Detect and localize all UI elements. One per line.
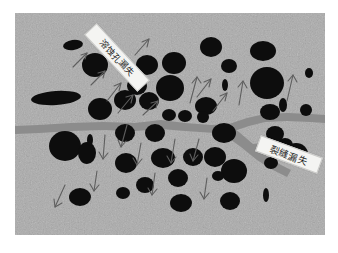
- vug: [114, 90, 136, 110]
- vug: [115, 153, 137, 173]
- vug: [162, 109, 176, 121]
- vug: [145, 124, 165, 142]
- lost-circulation-diagram: 溶蚀孔漏失 裂缝漏失: [15, 13, 325, 235]
- vug: [212, 171, 224, 181]
- vug: [212, 123, 236, 143]
- vug: [300, 104, 312, 116]
- vug: [183, 148, 203, 166]
- vug: [116, 187, 130, 199]
- vug: [156, 75, 184, 101]
- vug: [279, 98, 287, 112]
- vug: [87, 134, 93, 146]
- diagram-svg: [15, 13, 325, 235]
- vug: [136, 177, 154, 193]
- figure-root: 溶蚀孔漏失 裂缝漏失: [0, 0, 338, 253]
- vug: [197, 111, 209, 123]
- vug: [220, 192, 240, 210]
- vug: [204, 147, 226, 167]
- vug: [88, 98, 112, 120]
- vug: [305, 68, 313, 78]
- vug: [170, 194, 192, 212]
- vug: [260, 104, 280, 120]
- vug: [222, 79, 228, 91]
- vug: [162, 52, 186, 74]
- vug: [250, 67, 284, 99]
- vug: [221, 159, 247, 183]
- vug: [250, 41, 276, 61]
- vug: [221, 59, 237, 73]
- vug: [78, 142, 96, 164]
- vug: [200, 37, 222, 57]
- vug: [49, 131, 81, 161]
- vug: [168, 169, 188, 187]
- vug: [69, 188, 91, 206]
- vug: [263, 188, 269, 202]
- vug: [178, 110, 192, 122]
